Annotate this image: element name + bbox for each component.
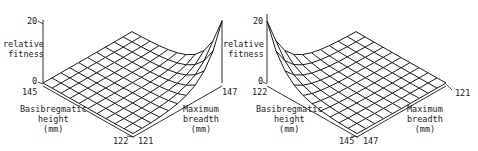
z-tick-20: 20: [27, 16, 37, 26]
height-tick-near: 145: [339, 136, 354, 146]
z-tick-0: 0: [258, 76, 263, 86]
x-axis-label: Basibregmatic height (mm): [256, 104, 323, 134]
z-tick-0: 0: [32, 76, 37, 86]
x-axis-label: Basibregmatic height (mm): [20, 104, 87, 134]
height-tick-far: 145: [22, 87, 37, 97]
z-axis-label: relative fitness: [223, 39, 264, 59]
z-tick-20: 20: [253, 16, 263, 26]
surface-plot-right: 20 relative fitness 0 122 Basibregmatic …: [239, 0, 478, 151]
z-axis-label: relative fitness: [3, 39, 44, 59]
breadth-tick-far: 147: [222, 87, 237, 97]
breadth-tick-far: 121: [455, 88, 470, 98]
y-axis-label: Maximum breadth (mm): [183, 104, 219, 134]
height-tick-near: 122: [113, 136, 128, 146]
height-tick-far: 122: [252, 87, 267, 97]
surface-plot-left: 20 relative fitness 0 145 Basibregmatic …: [0, 0, 239, 151]
breadth-tick-near: 147: [363, 136, 378, 146]
y-axis-label: Maximum breadth (mm): [407, 104, 443, 134]
breadth-tick-near: 121: [138, 136, 153, 146]
